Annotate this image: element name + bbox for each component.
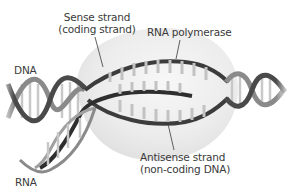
dna-label: DNA bbox=[14, 64, 37, 76]
sense-strand-label-line1: Sense strand bbox=[57, 11, 137, 23]
antisense-strand-label: Antisense strand (non-coding DNA) bbox=[140, 151, 230, 175]
transcription-diagram: Sense strand (coding strand) RNA polymer… bbox=[0, 0, 290, 190]
rna-polymerase-label: RNA polymerase bbox=[147, 26, 231, 38]
sense-strand-label-line2: (coding strand) bbox=[57, 23, 137, 35]
dna-helix-left bbox=[8, 78, 85, 121]
antisense-strand-label-line1: Antisense strand bbox=[140, 151, 230, 163]
sense-strand-label: Sense strand (coding strand) bbox=[57, 11, 137, 35]
rna-polymerase-bubble bbox=[77, 28, 238, 160]
antisense-strand-label-line2: (non-coding DNA) bbox=[140, 163, 230, 175]
rna-label: RNA bbox=[15, 176, 37, 188]
